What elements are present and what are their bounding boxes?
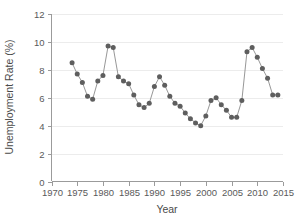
data-point xyxy=(188,116,193,121)
data-point xyxy=(183,111,188,116)
data-point xyxy=(121,79,126,84)
data-point xyxy=(198,123,203,128)
x-tick-label: 2015 xyxy=(273,187,294,198)
data-point xyxy=(167,94,172,99)
data-point xyxy=(255,55,260,60)
data-point xyxy=(244,49,249,54)
data-point xyxy=(157,74,162,79)
y-tick-label: 4 xyxy=(39,121,44,132)
data-point xyxy=(75,72,80,77)
data-point xyxy=(265,76,270,81)
data-point xyxy=(270,92,275,97)
data-point xyxy=(100,73,105,78)
x-tick-label: 1985 xyxy=(119,187,140,198)
data-point xyxy=(260,66,265,71)
data-point xyxy=(250,45,255,50)
x-tick-label: 1975 xyxy=(67,187,88,198)
data-point xyxy=(162,83,167,88)
data-point xyxy=(219,102,224,107)
x-tick-label: 1970 xyxy=(42,187,63,198)
data-point xyxy=(116,74,121,79)
data-point xyxy=(131,92,136,97)
y-tick-label: 8 xyxy=(39,65,44,76)
x-tick-label: 1990 xyxy=(144,187,165,198)
x-axis-title: Year xyxy=(156,203,178,215)
data-point xyxy=(136,102,141,107)
y-tick-label: 2 xyxy=(39,149,44,160)
x-tick-label: 1980 xyxy=(93,187,114,198)
x-tick-label: 2010 xyxy=(247,187,268,198)
data-point xyxy=(142,105,147,110)
data-point xyxy=(126,81,131,86)
y-tick-label: 10 xyxy=(34,37,45,48)
data-point xyxy=(178,104,183,109)
data-point xyxy=(70,60,75,65)
y-tick-label: 6 xyxy=(39,93,44,104)
chart-figure: 024681012 197019751980198519901995200020… xyxy=(0,0,298,219)
data-point xyxy=(214,95,219,100)
data-point xyxy=(147,101,152,106)
data-point xyxy=(152,84,157,89)
x-tick-label: 2000 xyxy=(196,187,217,198)
unemployment-rate-line-chart: 024681012 197019751980198519901995200020… xyxy=(0,0,298,219)
data-point xyxy=(172,101,177,106)
x-tick-label: 1995 xyxy=(170,187,191,198)
data-point xyxy=(234,115,239,120)
data-point xyxy=(203,113,208,118)
data-point xyxy=(275,92,280,97)
data-point xyxy=(106,44,111,49)
y-tick-label: 12 xyxy=(34,9,45,20)
data-point xyxy=(95,79,100,84)
data-point xyxy=(193,120,198,125)
data-point xyxy=(80,80,85,85)
data-point xyxy=(90,97,95,102)
data-point xyxy=(111,45,116,50)
x-tick-label: 2005 xyxy=(222,187,243,198)
y-axis-title: Unemployment Rate (%) xyxy=(3,40,15,155)
data-point xyxy=(85,94,90,99)
data-point xyxy=(208,98,213,103)
data-point xyxy=(239,98,244,103)
data-point xyxy=(229,115,234,120)
data-point xyxy=(224,108,229,113)
